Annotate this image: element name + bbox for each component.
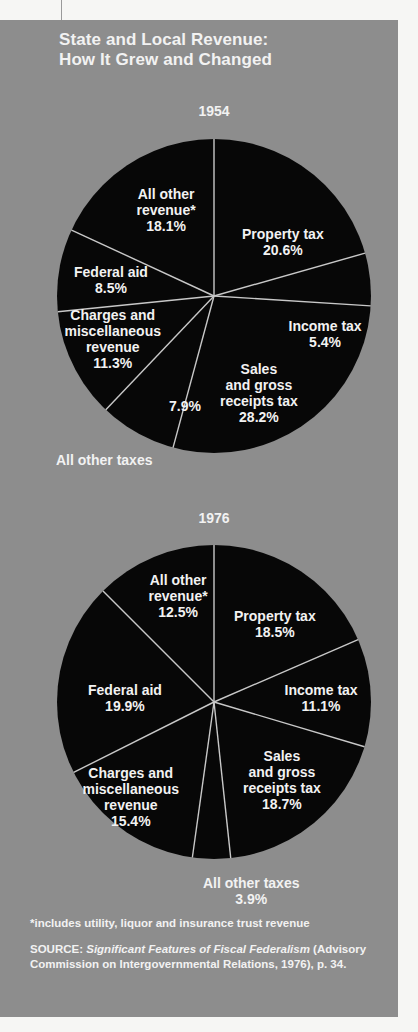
label-1976-all-other-revenue: All otherrevenue*12.5%	[149, 572, 208, 620]
source-citation: SOURCE: Significant Features of Fiscal F…	[30, 942, 370, 971]
label-1976-sales-tax: Salesand grossreceipts tax18.7%	[243, 748, 321, 812]
label-1954-income-tax: Income tax5.4%	[289, 318, 362, 350]
label-1976-property-tax: Property tax18.5%	[234, 608, 316, 640]
label-1954-charges: Charges andmiscellaneousrevenue11.3%	[65, 307, 162, 371]
label-1976-federal-aid: Federal aid19.9%	[88, 682, 162, 714]
label-1954-property-tax: Property tax20.6%	[242, 226, 324, 258]
label-1954-federal-aid: Federal aid8.5%	[74, 264, 148, 296]
footnote: *includes utility, liquor and insurance …	[30, 917, 310, 929]
pie-1954	[57, 139, 371, 453]
label-1954-sales-tax: Salesand grossreceipts tax28.2%	[220, 361, 298, 425]
label-1954-other-taxes-name: All other taxes	[56, 452, 152, 468]
label-1954-all-other-revenue: All otherrevenue*18.1%	[137, 186, 196, 234]
label-1954-other-taxes-value: 7.9%	[169, 398, 201, 414]
label-1976-income-tax: Income tax11.1%	[285, 682, 358, 714]
label-1976-other-taxes: All other taxes3.9%	[203, 875, 299, 907]
label-1976-charges: Charges andmiscellaneousrevenue15.4%	[83, 765, 180, 829]
